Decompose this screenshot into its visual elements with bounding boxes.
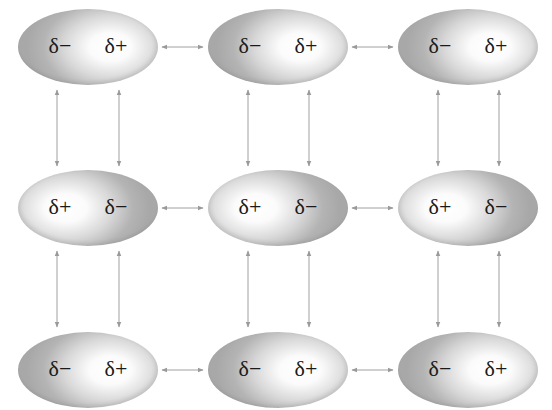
partial-charge-right: δ−	[485, 194, 508, 220]
dipole-diagram: δ− δ+ δ− δ+ δ− δ+ δ+ δ− δ+ δ− δ+ δ− δ− δ…	[0, 0, 552, 410]
partial-charge-left: δ−	[49, 33, 72, 59]
partial-charge-right: δ−	[295, 194, 318, 220]
partial-charge-right: δ+	[105, 356, 128, 382]
partial-charge-left: δ−	[49, 356, 72, 382]
partial-charge-left: δ−	[429, 356, 452, 382]
partial-charge-right: δ+	[105, 33, 128, 59]
molecule-r1-c2: δ− δ+	[208, 9, 348, 85]
partial-charge-left: δ−	[239, 356, 262, 382]
partial-charge-left: δ+	[239, 194, 262, 220]
partial-charge-left: δ+	[49, 194, 72, 220]
partial-charge-right: δ−	[105, 194, 128, 220]
molecule-r3-c3: δ− δ+	[398, 332, 538, 408]
partial-charge-left: δ−	[429, 33, 452, 59]
partial-charge-right: δ+	[295, 33, 318, 59]
molecule-r3-c2: δ− δ+	[208, 332, 348, 408]
molecule-r1-c3: δ− δ+	[398, 9, 538, 85]
partial-charge-left: δ−	[239, 33, 262, 59]
partial-charge-right: δ+	[485, 356, 508, 382]
molecule-r2-c2: δ+ δ−	[208, 170, 348, 246]
molecule-r2-c3: δ+ δ−	[398, 170, 538, 246]
molecule-r2-c1: δ+ δ−	[18, 170, 158, 246]
partial-charge-right: δ+	[295, 356, 318, 382]
molecule-r1-c1: δ− δ+	[18, 9, 158, 85]
molecule-r3-c1: δ− δ+	[18, 332, 158, 408]
partial-charge-left: δ+	[429, 194, 452, 220]
partial-charge-right: δ+	[485, 33, 508, 59]
